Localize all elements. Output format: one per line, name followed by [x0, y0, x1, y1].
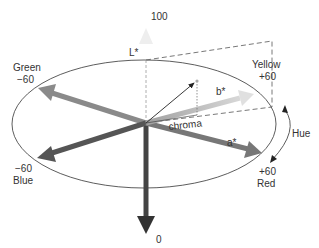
b-star-label: b*	[216, 86, 226, 97]
hue-arrow-top-icon	[282, 105, 288, 113]
yellow-label: Yellow	[252, 59, 281, 70]
lightness-axis-label: L*	[129, 47, 139, 58]
lightness-top-value: 100	[151, 11, 168, 22]
lab-color-space-diagram: 100 L* 0 Green −60 Yellow +60 −60 Blue +…	[0, 0, 319, 248]
blue-axis	[52, 123, 146, 153]
lightness-bottom-value: 0	[156, 234, 162, 245]
red-value: +60	[259, 166, 276, 177]
hue-label: Hue	[292, 128, 311, 139]
blue-label: Blue	[13, 175, 33, 186]
color-point	[195, 79, 198, 82]
a-star-label: a*	[227, 137, 237, 148]
blue-value: −60	[15, 163, 32, 174]
green-arrow-icon	[38, 84, 56, 101]
hue-arc	[272, 110, 290, 160]
lightness-arrow-down-icon	[137, 216, 155, 234]
chroma-label: chroma	[168, 118, 203, 132]
green-axis	[52, 93, 146, 123]
lightness-arrow-up-icon	[139, 28, 153, 44]
hue-arrow-bottom-icon	[270, 155, 277, 163]
blue-arrow-icon	[37, 146, 56, 162]
dashed-projection-box	[146, 41, 272, 123]
red-label: Red	[257, 178, 275, 189]
green-value: −60	[17, 74, 34, 85]
yellow-arrow-icon	[238, 90, 254, 106]
green-label: Green	[13, 62, 41, 73]
yellow-value: +60	[259, 71, 276, 82]
